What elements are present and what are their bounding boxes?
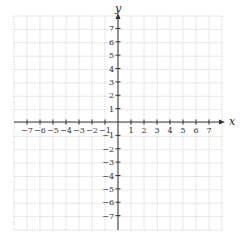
y-axis-label: y <box>114 2 122 15</box>
y-tick-label: 1 <box>109 105 114 114</box>
y-tick-label: −5 <box>102 185 114 194</box>
x-axis-label: x <box>229 115 236 128</box>
x-tick-label: 4 <box>167 126 172 135</box>
y-tick-label: −3 <box>102 158 114 167</box>
y-tick-label: 6 <box>109 38 114 47</box>
y-tick-label: −2 <box>102 145 114 154</box>
y-tick-label: −1 <box>102 131 114 140</box>
x-tick-label: −4 <box>60 126 72 135</box>
x-tick-label: −5 <box>47 126 59 135</box>
axes: xy <box>14 2 236 230</box>
y-tick-label: 5 <box>109 51 114 60</box>
y-tick-label: 7 <box>109 24 114 33</box>
x-tick-label: −7 <box>21 126 33 135</box>
x-tick-label: 5 <box>180 126 185 135</box>
x-tick-label: 1 <box>128 126 133 135</box>
x-tick-label: −3 <box>73 126 85 135</box>
y-tick-label: 4 <box>109 65 114 74</box>
x-tick-label: −2 <box>86 126 98 135</box>
x-tick-label: 3 <box>154 126 159 135</box>
x-tick-label: −6 <box>34 126 46 135</box>
y-tick-label: −6 <box>102 198 114 207</box>
coordinate-plane: xy −7−6−5−4−3−2−112345677654321−1−2−3−4−… <box>0 0 245 244</box>
y-tick-label: −4 <box>102 172 114 181</box>
y-tick-label: −7 <box>102 212 114 221</box>
x-tick-label: 6 <box>193 126 198 135</box>
y-tick-label: 3 <box>109 78 114 87</box>
x-tick-label: 2 <box>141 126 146 135</box>
x-tick-label: 7 <box>206 126 211 135</box>
y-tick-label: 2 <box>109 91 114 100</box>
